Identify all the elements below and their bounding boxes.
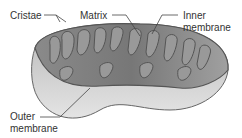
label-outer-membrane-line1: Outer bbox=[10, 111, 35, 122]
label-inner-membrane-line1: Inner bbox=[183, 10, 206, 21]
label-inner-membrane-line2: membrane bbox=[183, 22, 231, 33]
label-matrix: Matrix bbox=[80, 10, 107, 21]
cristae-leader bbox=[44, 15, 66, 22]
label-outer-membrane-line2: membrane bbox=[10, 123, 58, 134]
label-cristae: Cristae bbox=[10, 10, 42, 21]
